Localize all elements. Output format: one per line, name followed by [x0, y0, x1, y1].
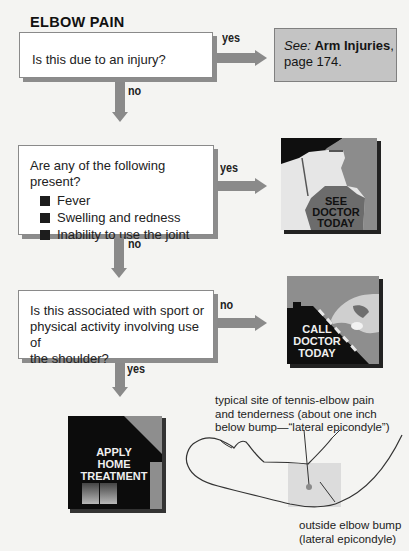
question-box-injury: Is this due to an injury? — [19, 32, 213, 78]
see-prefix: See: — [284, 38, 311, 53]
caption-elbow-bump: outside elbow bump (lateral epicondyle) — [299, 519, 401, 546]
pain-site-dot — [306, 484, 312, 490]
yes-label: yes — [222, 31, 240, 45]
svg-text:CALL: CALL — [302, 323, 332, 335]
svg-text:APPLY: APPLY — [96, 446, 132, 458]
svg-text:TODAY: TODAY — [298, 347, 336, 359]
no-label: no — [220, 298, 233, 312]
question-box-sport-activity: Is this associated with sport or physica… — [18, 290, 214, 359]
yes-arrow-right-icon — [217, 178, 267, 194]
yes-label: yes — [220, 161, 238, 175]
call-doctor-today-icon[interactable]: CALL DOCTOR TODAY — [287, 276, 383, 368]
see-doctor-today-icon[interactable]: SEE DOCTOR TODAY — [281, 138, 381, 234]
bullet-square-icon — [40, 230, 50, 240]
no-label: no — [128, 237, 141, 251]
symptom-list: Fever Swelling and redness Inability to … — [30, 192, 213, 243]
question-box-symptoms: Are any of the following present? Fever … — [18, 145, 214, 235]
page-title: ELBOW PAIN — [30, 14, 125, 30]
caption-pain-site: typical site of tennis-elbow pain and te… — [215, 394, 390, 435]
list-item: Fever — [40, 192, 213, 209]
svg-text:TODAY: TODAY — [317, 217, 355, 229]
bullet-square-icon — [40, 213, 50, 223]
see-arm-injuries-box[interactable]: See: Arm Injuries, page 174. — [274, 28, 397, 82]
bullet-square-icon — [40, 196, 50, 206]
no-arrow-right-icon — [217, 315, 267, 331]
yes-arrow-right-icon — [217, 50, 267, 66]
see-page: page 174. — [284, 54, 342, 69]
question-text: Are any of the following present? — [30, 158, 213, 190]
yes-arrow-down-icon — [112, 363, 128, 397]
no-arrow-down-icon — [112, 82, 128, 122]
svg-text:HOME: HOME — [98, 458, 131, 470]
epicondyle-highlight — [288, 463, 341, 507]
see-link[interactable]: Arm Injuries — [314, 38, 390, 53]
arm-illustration — [180, 430, 409, 510]
svg-text:DOCTOR: DOCTOR — [293, 335, 341, 347]
apply-home-treatment-icon[interactable]: APPLY HOME TREATMENT — [68, 416, 166, 513]
no-label: no — [128, 84, 141, 98]
question-text: Is this due to an injury? — [32, 52, 166, 67]
svg-text:TREATMENT: TREATMENT — [80, 470, 147, 482]
list-item: Swelling and redness — [40, 209, 213, 226]
yes-label: yes — [127, 362, 145, 376]
no-arrow-down-icon — [111, 238, 127, 278]
